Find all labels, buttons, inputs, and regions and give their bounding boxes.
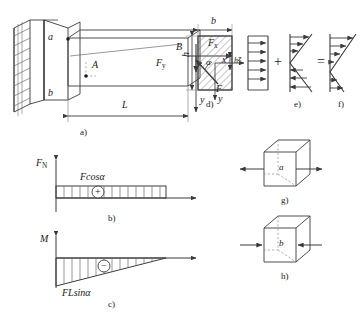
label-section-A: A bbox=[92, 60, 98, 70]
label-element-b: b bbox=[279, 239, 284, 248]
panel-d-uniform-stress bbox=[248, 36, 268, 90]
M-triangle bbox=[56, 258, 166, 286]
label-moment-value: FLsinα bbox=[62, 288, 91, 298]
label-axial-force-axis: FN bbox=[36, 158, 47, 170]
label-element-a: a bbox=[279, 163, 284, 172]
caption-b: b) bbox=[108, 214, 116, 223]
label-moment-sign: − bbox=[101, 261, 107, 271]
label-axial-force-value: Fcosα bbox=[80, 172, 105, 182]
label-axis-y: y bbox=[200, 95, 204, 105]
caption-d: d) bbox=[206, 100, 214, 109]
mechanics-figure: a b A B Fx Fy F α x y L a) b h h z y d) … bbox=[0, 0, 364, 325]
label-axis-x: x bbox=[222, 55, 226, 65]
panel-e-bending-stress bbox=[290, 34, 312, 92]
label-point-a: a bbox=[48, 32, 53, 42]
panel-f-combined-stress bbox=[330, 34, 356, 92]
label-length-L: L bbox=[122, 100, 128, 110]
FN-hatching bbox=[64, 186, 160, 198]
caption-f: f) bbox=[338, 100, 344, 109]
label-point-b: b bbox=[48, 88, 53, 98]
caption-a: a) bbox=[80, 128, 87, 137]
label-force-Fy: Fy bbox=[156, 58, 166, 70]
operator-equals: = bbox=[317, 55, 325, 69]
length-dimension bbox=[68, 86, 188, 122]
label-angle-alpha: α bbox=[206, 58, 211, 67]
panel-b-axial-force-diagram bbox=[56, 160, 196, 212]
operator-plus: + bbox=[274, 55, 282, 69]
caption-h: h) bbox=[281, 272, 289, 281]
panel-c-moment-diagram bbox=[56, 236, 196, 288]
label-height-h: h bbox=[181, 52, 191, 57]
label-axial-sign: + bbox=[95, 187, 101, 197]
caption-c: c) bbox=[108, 300, 115, 309]
caption-e: e) bbox=[294, 100, 301, 109]
label-force-Fx: Fx bbox=[208, 38, 218, 50]
label-point-B: B bbox=[176, 42, 182, 52]
point-a-marker bbox=[66, 37, 70, 41]
label-moment-axis: M bbox=[40, 234, 48, 244]
label-axis-z-d: z bbox=[238, 54, 242, 63]
label-axis-y-d: y bbox=[218, 94, 222, 104]
label-width-b: b bbox=[211, 16, 216, 26]
beam-prism bbox=[68, 30, 200, 86]
caption-g: g) bbox=[281, 196, 289, 205]
